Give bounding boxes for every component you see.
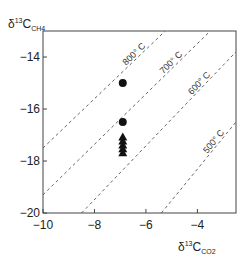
plot-frame: [43, 31, 236, 213]
y-tick-label: −18: [20, 154, 41, 168]
isotherm-label: 700° C: [158, 49, 185, 76]
x-axis-title: δ13CCO2: [178, 240, 216, 255]
data-point-circle: [119, 79, 127, 87]
y-axis-title: δ13CCH4: [8, 17, 45, 32]
y-tick-label: −20: [20, 206, 41, 220]
isotope-chart: 800° C700° C600° C500° C−10−8−6−4−14−16−…: [0, 0, 249, 263]
x-tick-label: −8: [88, 218, 102, 232]
isotherm-label: 600° C: [186, 69, 213, 96]
x-tick-label: −10: [33, 218, 54, 232]
x-tick-label: −4: [191, 218, 205, 232]
x-tick-label: −6: [139, 218, 153, 232]
isotherm-label: 500° C: [201, 127, 227, 155]
data-point-circle: [119, 118, 127, 126]
y-tick-label: −16: [20, 102, 41, 116]
y-tick-label: −14: [20, 50, 41, 64]
isotherm-label: 800° C: [121, 40, 148, 67]
isotherm-line: [82, 52, 236, 213]
